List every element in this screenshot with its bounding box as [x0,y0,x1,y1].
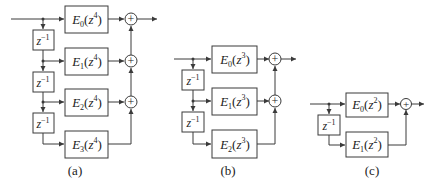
filter-label-b0: E0(z3) [220,51,250,69]
delay-label: z−1 [36,116,49,132]
filter-label-a3: E3(z4) [72,136,102,154]
caption-c: (c) [365,163,379,179]
delay-label: z−1 [36,33,49,49]
polyphase-diagram [0,0,436,186]
delay-label: z−1 [322,118,335,134]
plus-sign: + [128,12,135,27]
plus-sign: + [128,54,135,69]
delay-label: z−1 [186,115,199,131]
delay-label: z−1 [186,73,199,89]
filter-label-a2: E2(z4) [72,94,102,112]
filter-label-c1: E1(z2) [352,136,382,154]
filter-label-c0: E0(z2) [352,96,382,114]
filter-label-a0: E0(z4) [72,11,102,29]
plus-sign: + [403,98,409,110]
filter-label-b1: E1(z3) [220,93,250,111]
plus-sign: + [128,95,135,110]
caption-b: (b) [220,163,235,179]
delay-label: z−1 [36,75,49,91]
filter-label-b2: E2(z3) [220,136,250,154]
filter-label-a1: E1(z4) [72,53,102,71]
caption-a: (a) [68,163,82,179]
plus-sign: + [272,52,279,67]
plus-sign: + [272,94,279,109]
